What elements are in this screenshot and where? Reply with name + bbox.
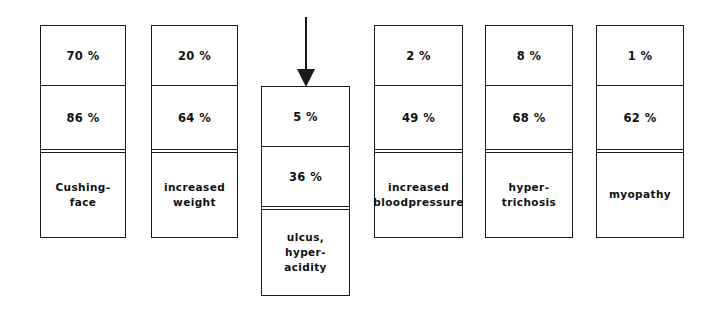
- cell-label: increased bloodpressure: [375, 153, 462, 237]
- cell-label: Cushing- face: [41, 153, 125, 237]
- side-effects-diagram: 70 % 86 % Cushing- face 20 % 64 % increa…: [0, 0, 716, 315]
- cell-label: myopathy: [597, 153, 683, 237]
- cell-label: increased weight: [152, 153, 237, 237]
- column-increased-bloodpressure: 2 % 49 % increased bloodpressure: [374, 25, 463, 238]
- label-line: weight: [164, 195, 225, 210]
- label-line: increased: [373, 180, 463, 195]
- column-increased-weight: 20 % 64 % increased weight: [151, 25, 238, 238]
- label-line: increased: [164, 180, 225, 195]
- column-ulcus-hyperacidity: 5 % 36 % ulcus, hyper- acidity: [261, 86, 350, 296]
- label-line: bloodpressure: [373, 195, 463, 210]
- cell-top-percent: 8 %: [486, 26, 572, 86]
- down-arrow-icon: [293, 16, 319, 88]
- column-myopathy: 1 % 62 % myopathy: [596, 25, 684, 238]
- cell-label: ulcus, hyper- acidity: [262, 210, 349, 295]
- label-line: face: [55, 195, 110, 210]
- label-line: hyper-: [284, 245, 327, 260]
- label-line: trichosis: [502, 195, 556, 210]
- label-line: acidity: [284, 260, 327, 275]
- cell-middle-percent: 68 %: [486, 86, 572, 153]
- label-line: Cushing-: [55, 180, 110, 195]
- cell-middle-percent: 36 %: [262, 147, 349, 210]
- label-line: myopathy: [609, 187, 671, 202]
- label-line: ulcus,: [284, 230, 327, 245]
- cell-middle-percent: 62 %: [597, 86, 683, 153]
- column-hypertrichosis: 8 % 68 % hyper- trichosis: [485, 25, 573, 238]
- cell-label: hyper- trichosis: [486, 153, 572, 237]
- cell-middle-percent: 64 %: [152, 86, 237, 153]
- cell-top-percent: 5 %: [262, 87, 349, 147]
- label-line: hyper-: [502, 180, 556, 195]
- cell-middle-percent: 49 %: [375, 86, 462, 153]
- cell-middle-percent: 86 %: [41, 86, 125, 153]
- column-cushing-face: 70 % 86 % Cushing- face: [40, 25, 126, 238]
- cell-top-percent: 70 %: [41, 26, 125, 86]
- cell-top-percent: 1 %: [597, 26, 683, 86]
- cell-top-percent: 2 %: [375, 26, 462, 86]
- cell-top-percent: 20 %: [152, 26, 237, 86]
